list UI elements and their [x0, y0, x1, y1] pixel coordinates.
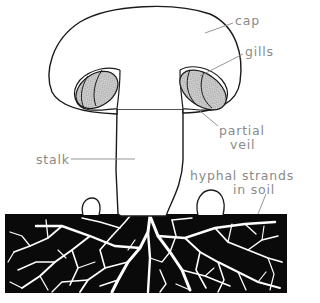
partial-veil-leader	[200, 111, 218, 126]
label-partial-veil-line1: partial	[219, 124, 265, 137]
label-gills: gills	[245, 45, 274, 58]
hyphal-leader	[258, 194, 266, 214]
stalk	[116, 109, 183, 216]
label-hyphal-strands-line1: hyphal strands	[190, 169, 293, 182]
left-button-primordium	[82, 198, 100, 215]
label-partial-veil-line2: veil	[230, 138, 255, 151]
label-hyphal-strands-line2: in soil	[233, 183, 275, 196]
label-stalk: stalk	[36, 153, 70, 166]
right-button-primordium	[197, 190, 224, 215]
label-cap: cap	[235, 14, 260, 27]
